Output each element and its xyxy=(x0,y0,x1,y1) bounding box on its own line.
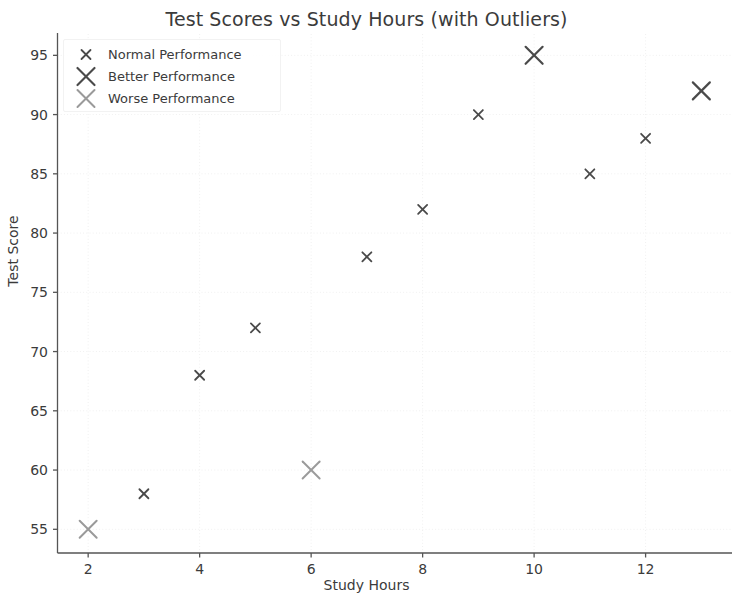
legend-item[interactable]: Better Performance xyxy=(64,65,280,88)
y-tick-label: 60 xyxy=(8,462,48,478)
data-point xyxy=(474,110,483,119)
x-axis-label: Study Hours xyxy=(0,577,733,593)
data-point xyxy=(362,252,371,261)
x-tick-label: 12 xyxy=(637,561,655,577)
x-tick-label: 8 xyxy=(418,561,427,577)
legend-item[interactable]: Normal Performance xyxy=(64,43,280,66)
data-point xyxy=(693,82,710,99)
y-axis-label: Test Score xyxy=(5,191,21,311)
axis-ticks xyxy=(53,55,646,557)
y-tick-label: 70 xyxy=(8,344,48,360)
x-tick-label: 4 xyxy=(195,561,204,577)
data-points xyxy=(80,47,710,538)
data-point xyxy=(139,489,148,498)
y-tick-label: 90 xyxy=(8,107,48,123)
legend-item[interactable]: Worse Performance xyxy=(64,87,280,110)
legend-label: Worse Performance xyxy=(108,91,235,106)
data-point xyxy=(251,323,260,332)
y-tick-label: 55 xyxy=(8,521,48,537)
legend-marker-x-icon xyxy=(64,87,108,110)
data-point xyxy=(641,134,650,143)
data-point xyxy=(418,205,427,214)
legend-marker-x-icon xyxy=(64,65,108,88)
legend-marker-x-icon xyxy=(64,43,108,66)
y-tick-label: 95 xyxy=(8,47,48,63)
chart-figure: Test Scores vs Study Hours (with Outlier… xyxy=(0,0,733,604)
x-tick-label: 10 xyxy=(525,561,543,577)
x-tick-label: 6 xyxy=(307,561,316,577)
y-tick-label: 65 xyxy=(8,403,48,419)
x-tick-label: 2 xyxy=(84,561,93,577)
y-tick-label: 85 xyxy=(8,166,48,182)
data-point xyxy=(585,169,594,178)
data-point xyxy=(80,521,97,538)
chart-legend: Normal PerformanceBetter PerformanceWors… xyxy=(63,39,281,112)
data-point xyxy=(195,371,204,380)
legend-label: Normal Performance xyxy=(108,47,242,62)
legend-label: Better Performance xyxy=(108,69,235,84)
